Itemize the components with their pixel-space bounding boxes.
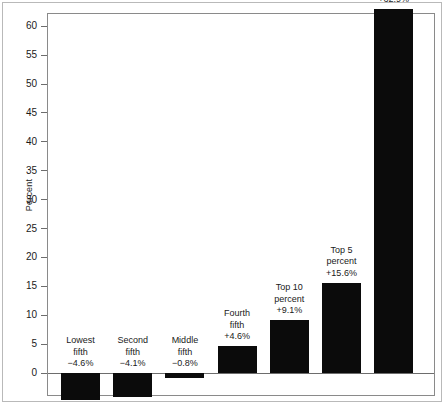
y-tick-mark (41, 141, 47, 142)
bar-label-line: +62.9% (354, 0, 434, 6)
zero-baseline (48, 373, 434, 374)
y-tick-label: 40 (26, 136, 37, 148)
y-tick-label: 50 (26, 78, 37, 90)
bar-1 (61, 373, 100, 400)
y-tick-45: 45 (0, 107, 47, 119)
y-tick-label: 0 (31, 367, 37, 379)
bar-label-5: Top 10percent+9.1% (249, 282, 329, 317)
y-tick-35: 35 (0, 165, 47, 177)
bar-label-line: fifth (145, 347, 225, 359)
y-tick-60: 60 (0, 20, 47, 32)
y-tick-mark (41, 257, 47, 258)
y-tick-mark (41, 112, 47, 113)
bar-2 (113, 373, 152, 397)
y-tick-label: 20 (26, 251, 37, 263)
bar-label-line: fifth (197, 320, 277, 332)
y-tick-label: 25 (26, 223, 37, 235)
y-tick-mark (41, 55, 47, 56)
y-tick-mark (41, 315, 47, 316)
bar-3 (165, 373, 204, 378)
y-tick-label: 10 (26, 309, 37, 321)
bar-label-line: percent (249, 294, 329, 306)
y-tick-25: 25 (0, 223, 47, 235)
bar-label-6: Top 5percent+15.6% (302, 245, 382, 280)
y-tick-15: 15 (0, 280, 47, 292)
bar-label-line: Top 10 (249, 282, 329, 294)
y-tick-mark (41, 286, 47, 287)
y-tick-label: 60 (26, 20, 37, 32)
y-tick-20: 20 (0, 251, 47, 263)
bar-label-7: Top 1percent+62.9% (354, 0, 434, 6)
y-tick-label: 55 (26, 49, 37, 61)
y-tick-55: 55 (0, 49, 47, 61)
y-tick-mark (41, 199, 47, 200)
bar-label-line: +15.6% (302, 268, 382, 280)
y-tick-mark (41, 26, 47, 27)
bar-7 (374, 9, 413, 373)
plot-area: Lowestfifth−4.6%Secondfifth−4.1%Middlefi… (48, 14, 434, 395)
chart-figure: Percent 051015202530354045505560 Lowestf… (0, 0, 447, 406)
y-tick-mark (41, 228, 47, 229)
bar-label-line: Top 5 (302, 245, 382, 257)
bar-label-line: +9.1% (249, 305, 329, 317)
y-tick-label: 45 (26, 107, 37, 119)
y-tick-label: 15 (26, 280, 37, 292)
bar-label-line: +4.6% (197, 331, 277, 343)
y-tick-label: 30 (26, 194, 37, 206)
y-tick-30: 30 (0, 194, 47, 206)
y-tick-mark (41, 170, 47, 171)
y-tick-mark (41, 84, 47, 85)
y-tick-10: 10 (0, 309, 47, 321)
bar-label-line: −0.8% (145, 358, 225, 370)
y-tick-label: 35 (26, 165, 37, 177)
y-tick-50: 50 (0, 78, 47, 90)
y-tick-label: 5 (31, 338, 37, 350)
y-tick-40: 40 (0, 136, 47, 148)
y-tick-mark (41, 373, 47, 374)
bar-label-line: percent (302, 256, 382, 268)
